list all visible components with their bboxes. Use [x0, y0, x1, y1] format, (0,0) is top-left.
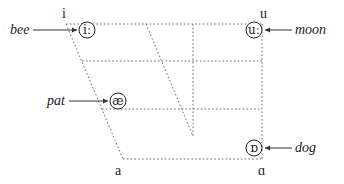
symbol-turned-a: ɒ	[250, 141, 258, 155]
vowel-chart: i u a ɑ iː bee uː moon æ pat ɒ dog	[0, 0, 344, 184]
left-slanted-edge	[66, 24, 123, 159]
corner-label-a: a	[115, 163, 122, 178]
corner-label-script-a: ɑ	[258, 163, 265, 178]
word-pat: pat	[46, 93, 66, 108]
vowel-marker-uu: uː moon	[246, 22, 326, 38]
corner-label-u: u	[260, 6, 267, 21]
word-bee: bee	[10, 22, 29, 37]
central-slanted-line	[146, 24, 193, 136]
symbol-uu: uː	[248, 23, 260, 37]
vowel-marker-ae: æ pat	[46, 93, 126, 109]
vowel-marker-ii: iː bee	[10, 22, 95, 38]
word-dog: dog	[295, 140, 316, 155]
symbol-ii: iː	[83, 23, 91, 37]
vowel-quadrilateral-grid	[66, 24, 262, 159]
word-moon: moon	[295, 22, 326, 37]
vowel-marker-turned-a: ɒ dog	[246, 140, 316, 156]
corner-label-i: i	[62, 6, 66, 21]
symbol-ae: æ	[112, 94, 123, 108]
